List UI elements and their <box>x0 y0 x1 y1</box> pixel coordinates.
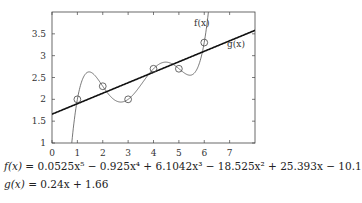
plot-series <box>52 0 255 160</box>
x-tick-label: 5 <box>176 148 182 158</box>
y-tick-label: 2 <box>40 94 46 104</box>
chart-plot: 0123456711.522.533.5 f(x)g(x) <box>0 0 335 160</box>
curve-f <box>52 0 255 160</box>
y-tick-label: 2.5 <box>32 73 47 83</box>
axis-ticks: 0123456711.522.533.5 <box>32 12 255 158</box>
y-tick-label: 3.5 <box>32 29 47 39</box>
data-point-markers <box>74 39 208 103</box>
x-tick-label: 2 <box>100 148 106 158</box>
y-tick-label: 3 <box>40 51 46 61</box>
plot-border <box>52 12 255 143</box>
x-tick-label: 0 <box>49 148 55 158</box>
formula-g-rhs: = 0.24x + 1.66 <box>25 178 109 190</box>
y-tick-label: 1.5 <box>32 116 47 126</box>
formula-g-lhs: g(x) <box>4 178 25 190</box>
formula-f-lhs: f(x) <box>4 160 22 172</box>
x-tick-label: 7 <box>227 148 233 158</box>
y-tick-label: 1 <box>40 138 46 148</box>
formula-g: g(x) = 0.24x + 1.66 <box>4 178 108 190</box>
x-tick-label: 4 <box>151 148 157 158</box>
x-tick-label: 1 <box>75 148 81 158</box>
curve-label: g(x) <box>227 39 245 49</box>
curve-label: f(x) <box>194 18 209 28</box>
x-tick-label: 3 <box>125 148 131 158</box>
formula-f: f(x) = 0.0525x⁵ − 0.925x⁴ + 6.1042x³ − 1… <box>4 160 362 172</box>
formula-f-rhs: = 0.0525x⁵ − 0.925x⁴ + 6.1042x³ − 18.525… <box>22 160 362 172</box>
x-tick-label: 6 <box>201 148 207 158</box>
plot-frame <box>52 12 255 143</box>
